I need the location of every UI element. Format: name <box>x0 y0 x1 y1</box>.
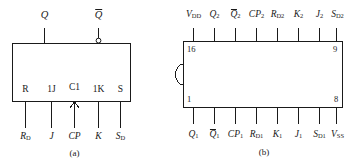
dip-top-label-q2: Q2 <box>209 10 219 20</box>
pin-number-16: 16 <box>187 45 196 54</box>
output-label-qbar: Q <box>95 10 103 21</box>
dip-bottom-label-j1: J1 <box>295 130 302 140</box>
pin-number-8: 8 <box>334 95 338 104</box>
dip-top-label-sd2: SD2 <box>331 10 344 20</box>
external-pin-label-rd: RD <box>20 132 30 142</box>
dip-top-label-j2: J2 <box>316 10 323 20</box>
dip-bottom-label-sd1: SD1 <box>313 130 326 140</box>
dip-bottom-label-k1: K1 <box>273 130 283 140</box>
dip-top-label-k2: K2 <box>294 10 304 20</box>
dip-top-label-cp2: CP2 <box>249 10 264 20</box>
pin-number-9: 9 <box>333 45 337 54</box>
caption-b: (b) <box>259 148 270 157</box>
caption-a: (a) <box>70 149 80 158</box>
dip-package-body <box>184 42 343 108</box>
flipflop-symbol-box <box>13 44 131 102</box>
output-label-q: Q <box>41 10 49 21</box>
external-pin-label-sd: SD <box>116 132 125 142</box>
dip-bottom-label-cp1: CP1 <box>228 130 243 140</box>
dip-bottom-label-rd1: RD1 <box>250 130 264 140</box>
dip-top-label-vdd: VDD <box>186 10 201 20</box>
external-pin-label-j: J <box>49 132 53 142</box>
package-orientation-notch <box>176 64 184 85</box>
internal-pin-label-s: S <box>118 85 123 95</box>
internal-pin-label-1k: 1K <box>93 85 105 95</box>
inversion-bubble-qbar <box>96 38 101 43</box>
figure-root: Q Q R 1J C1 1K S RD J CP K SD (a) VDD Q2… <box>0 0 354 168</box>
pin-number-1: 1 <box>187 95 191 104</box>
dip-bottom-label-q1bar: Q1 <box>209 130 219 140</box>
internal-pin-label-r: R <box>22 85 28 95</box>
internal-pin-label-c1: C1 <box>69 83 80 93</box>
dip-top-label-rd2: RD2 <box>271 10 285 20</box>
external-pin-label-cp: CP <box>68 132 80 142</box>
dip-bottom-label-vss: VSS <box>331 130 344 140</box>
dip-top-label-q2bar: Q2 <box>230 10 240 20</box>
dip-bottom-label-q1: Q1 <box>188 130 198 140</box>
internal-pin-label-1j: 1J <box>47 85 55 95</box>
external-pin-label-k: K <box>95 132 101 142</box>
